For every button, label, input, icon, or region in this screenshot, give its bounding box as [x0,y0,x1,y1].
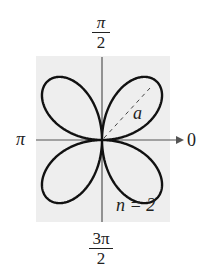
denominator: 2 [97,34,106,51]
label-a: a [133,103,142,124]
numerator: π [97,14,106,31]
arrow-head-icon [176,136,184,144]
denominator: 2 [97,250,106,267]
numerator: 3π [92,230,109,247]
label-n-equals-2: n = 2 [116,195,155,216]
label-zero: 0 [187,130,196,151]
label-3pi-over-2: 3π 2 [89,230,113,267]
label-pi-over-2: π 2 [92,14,110,51]
label-pi: π [16,129,25,150]
